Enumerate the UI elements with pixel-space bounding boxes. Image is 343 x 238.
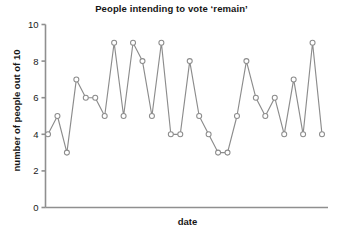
y-axis-tick-label: 4 — [33, 129, 38, 140]
data-point-marker — [234, 114, 239, 119]
data-point-marker — [93, 95, 98, 100]
data-point-marker — [282, 132, 287, 137]
data-point-marker — [168, 132, 173, 137]
data-point-marker — [197, 114, 202, 119]
y-axis-tick-label: 6 — [33, 92, 38, 103]
data-point-marker — [216, 150, 221, 155]
y-axis-tick-label: 10 — [28, 19, 39, 30]
data-point-marker — [206, 132, 211, 137]
data-point-marker — [55, 114, 60, 119]
data-point-marker — [291, 77, 296, 82]
data-point-marker — [320, 132, 325, 137]
data-point-marker — [102, 114, 107, 119]
data-point-marker — [178, 132, 183, 137]
data-point-marker — [46, 132, 51, 137]
data-point-marker — [244, 59, 249, 64]
data-point-marker — [64, 150, 69, 155]
y-axis-tick-label: 2 — [33, 165, 38, 176]
data-point-marker — [159, 40, 164, 45]
data-point-marker — [121, 114, 126, 119]
data-line-remain — [48, 43, 322, 153]
data-point-marker — [225, 150, 230, 155]
data-point-marker — [301, 132, 306, 137]
data-point-marker — [131, 40, 136, 45]
data-point-marker — [263, 114, 268, 119]
data-point-marker — [140, 59, 145, 64]
data-point-marker — [149, 114, 154, 119]
data-point-marker — [74, 77, 79, 82]
data-point-marker — [112, 40, 117, 45]
data-point-marker — [310, 40, 315, 45]
data-point-marker — [83, 95, 88, 100]
chart-container: People intending to vote ‘remain’ number… — [0, 0, 343, 238]
plot-area: 0246810 — [0, 0, 343, 238]
data-point-marker — [272, 95, 277, 100]
y-axis-tick-label: 0 — [33, 202, 38, 213]
y-axis-tick-label: 8 — [33, 56, 38, 67]
data-point-marker — [253, 95, 258, 100]
data-point-marker — [187, 59, 192, 64]
